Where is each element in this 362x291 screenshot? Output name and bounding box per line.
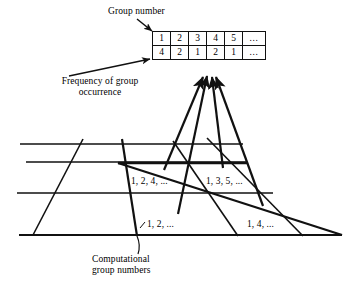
frequency-caption-line2: occurrence [48,87,152,98]
group-number-caption: Group number [108,6,165,17]
cell-freq-1: 4 [153,46,171,60]
cell-freq-2: 2 [171,46,189,60]
computational-caption-line1: Computational [92,254,176,265]
table-row-group-numbers: 1 2 3 4 5 ... [153,32,266,46]
computational-caption-line2: group numbers [92,265,176,276]
mesh-vline-1 [33,139,83,235]
cell-group-5: 5 [225,32,243,46]
leader-group-number [137,19,152,31]
table-row-frequencies: 4 2 1 2 1 ... [153,46,266,60]
frequency-caption: Frequency of group occurrence [48,76,152,98]
callout-leaders [69,19,152,254]
computational-caption: Computational group numbers [92,254,176,276]
cell-freq-4: 2 [207,46,225,60]
frequency-caption-line1: Frequency of group [48,76,152,87]
perspective-mesh [17,138,342,236]
cell-group-4: 4 [207,32,225,46]
cell-group-1: 1 [153,32,171,46]
cell-group-2: 2 [171,32,189,46]
leader-computational [137,236,139,254]
leader-set-c [140,222,145,228]
leader-frequency [69,59,150,76]
frequency-table: 1 2 3 4 5 ... 4 2 1 2 1 ... [152,31,266,60]
mesh-label-set-d: 1, 4, ... [247,219,274,230]
mesh-label-set-b: 1, 3, 5, ... [206,176,243,187]
mesh-vline-2 [122,139,137,236]
cell-group-ellipsis: ... [243,32,266,46]
cell-freq-ellipsis: ... [243,46,266,60]
cell-freq-5: 1 [225,46,243,60]
cell-freq-3: 1 [189,46,207,60]
figure-container: 1 2 3 4 5 ... 4 2 1 2 1 ... Group number… [0,0,362,291]
cell-group-3: 3 [189,32,207,46]
mesh-label-set-a: 1, 2, 4, ... [131,176,168,187]
mesh-label-set-c: 1, 2, ... [147,219,174,230]
